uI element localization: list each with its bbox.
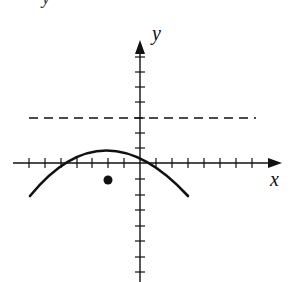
clipped-top-text: y bbox=[40, 0, 50, 8]
coordinate-plane-figure: y x bbox=[0, 0, 291, 282]
filled-point bbox=[104, 176, 113, 185]
parabola-curve bbox=[30, 151, 188, 197]
x-axis-label: x bbox=[269, 168, 279, 190]
y-axis-label: y bbox=[150, 22, 161, 45]
x-axis-arrow-icon bbox=[268, 158, 282, 168]
y-axis-arrow-icon bbox=[135, 40, 145, 54]
